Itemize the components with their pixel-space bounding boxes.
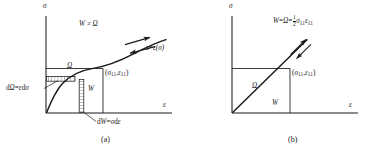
panel-b-omega-region-label: Ω — [252, 83, 257, 90]
panel-b-point-label: (σ11,ε11) — [292, 70, 315, 77]
panel-a-d-omega-label: dΩ=εdσ — [6, 85, 29, 92]
diagram-canvas — [0, 0, 375, 153]
relation-eq2: = — [288, 17, 292, 25]
panel-b-caption: (b) — [288, 135, 297, 144]
panel-a-relation-note: W ≠ Ω — [79, 21, 98, 28]
panel-a-d-w-strip — [79, 79, 84, 112]
panel-a-w-region-label: W — [88, 86, 94, 93]
panel-a-omega-region-label: Ω — [67, 63, 72, 70]
paren-close: ) — [313, 69, 315, 77]
panel-b-x-axis-label: ε — [349, 102, 352, 109]
panel-a-point-label: (σ11,ε11) — [105, 70, 128, 77]
panel-b-y-axis-label: σ — [229, 3, 233, 10]
d-w-rhs-b: ε — [118, 118, 121, 126]
panel-a-caption: (a) — [101, 135, 110, 144]
panel-b-relation-note: W=Ω=12σ11ε11 — [273, 15, 313, 27]
panel-b-w-region-label: W — [272, 100, 278, 107]
panel-a-x-axis-label: ε — [163, 102, 166, 109]
panel-b — [232, 16, 358, 113]
panel-a-d-w-label: dW=σdε — [97, 119, 121, 126]
figure-root: σ ε W ≠ Ω ε=ε(σ) (σ11,ε11) Ω W dΩ=εdσ dW… — [0, 0, 375, 153]
paren-close: ) — [126, 69, 128, 77]
panel-a-curve-label: ε=ε(σ) — [146, 45, 164, 52]
panel-a-y-axis-label: σ — [43, 3, 47, 10]
panel-a-d-w-leader — [84, 112, 96, 121]
curve-label-rhs: ε(σ) — [153, 44, 164, 52]
d-omega-rhs-b: σ — [25, 84, 29, 92]
relation-epsilon-sub: 11 — [308, 20, 313, 26]
